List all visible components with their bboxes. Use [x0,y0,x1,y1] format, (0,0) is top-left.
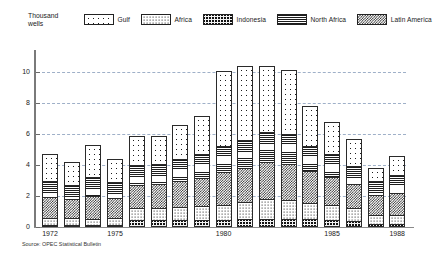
bar-segment-indonesia [85,225,101,227]
bar-segment-northafrica [151,164,167,183]
bar-1978[interactable] [172,125,188,227]
bar-1974[interactable] [85,145,101,227]
bar-1986[interactable] [346,139,362,227]
bar-segment-africa [107,218,123,225]
x-tick-label: 1985 [324,230,340,237]
bar-segment-gulf [259,66,275,132]
bar-segment-africa [281,200,297,219]
y-tick-label: 10 [18,68,30,75]
bar-segment-gulf [281,70,297,134]
bar-segment-africa [216,205,232,220]
bar-segment-latinamerica [85,196,101,218]
bar-segment-indonesia [281,219,297,228]
y-tick-label: 8 [18,99,30,106]
legend-swatch-northafrica-icon [277,14,307,25]
bar-segment-latinamerica [237,168,253,202]
bar-segment-africa [324,205,340,220]
y-tick-label: 0 [18,223,30,230]
bar-segment-indonesia [324,220,340,227]
bar-segment-gulf [85,145,101,177]
bar-segment-northafrica [194,154,210,177]
bar-segment-northafrica [302,146,318,172]
bar-segment-gulf [389,156,405,175]
bar-segment-africa [389,215,405,224]
bar-1981[interactable] [237,66,253,227]
bar-1988[interactable] [389,156,405,227]
bar-segment-africa [259,199,275,218]
bar-segment-northafrica [237,140,253,168]
bar-1987[interactable] [368,168,384,227]
bar-segment-northafrica [368,181,384,196]
legend-item-northafrica[interactable]: North Africa [277,14,346,25]
y-axis-title-line2: wells [28,20,43,27]
bar-segment-africa [346,208,362,221]
bar-segment-indonesia [107,225,123,227]
bar-1983[interactable] [281,70,297,227]
bar-1980[interactable] [216,71,232,227]
bar-1984[interactable] [302,106,318,227]
bar-1972[interactable] [42,154,58,227]
bar-1975[interactable] [107,159,123,227]
legend-swatch-latinamerica-icon [357,14,387,25]
bar-segment-gulf [172,125,188,159]
bar-segment-gulf [151,136,167,165]
legend-item-gulf[interactable]: Gulf [84,14,130,25]
bar-segment-gulf [302,106,318,145]
bar-segment-latinamerica [172,181,188,207]
source-note: Source: OPEC Statistical Bulletin [22,241,101,247]
legend-item-latinamerica[interactable]: Latin America [357,14,432,25]
bar-segment-latinamerica [346,184,362,208]
bar-segment-indonesia [172,220,188,227]
legend-label: Gulf [118,16,131,23]
bar-segment-indonesia [216,220,232,227]
bar-segment-latinamerica [42,197,58,218]
bar-segment-gulf [64,162,80,184]
bar-segment-gulf [107,159,123,182]
bar-segment-indonesia [237,219,253,227]
legend-item-indonesia[interactable]: Indonesia [203,14,266,25]
bar-segment-northafrica [259,132,275,162]
bar-1973[interactable] [64,162,80,227]
bar-segment-latinamerica [281,164,297,200]
bar-1979[interactable] [194,116,210,227]
bar-segment-indonesia [64,225,80,227]
bar-segment-latinamerica [368,195,384,215]
bar-segment-northafrica [389,175,405,193]
y-tick-mark [36,72,40,73]
legend-label: North Africa [310,16,346,23]
chart-legend: GulfAfricaIndonesiaNorth AfricaLatin Ame… [84,14,437,25]
bar-segment-indonesia [368,224,384,227]
y-tick-label: 4 [18,161,30,168]
bar-segment-northafrica [64,185,80,200]
bar-segment-indonesia [346,221,362,227]
legend-swatch-gulf-icon [84,14,114,25]
bar-segment-indonesia [194,220,210,227]
plot-area: 0246810 19721975198019851988 [34,50,414,228]
bar-1985[interactable] [324,122,340,227]
bar-segment-gulf [194,116,210,155]
bar-segment-gulf [216,71,232,146]
legend-swatch-africa-icon [141,14,171,25]
legend-label: Africa [175,16,192,23]
bar-segment-latinamerica [216,172,232,204]
bar-segment-northafrica [172,159,188,181]
legend-item-africa[interactable]: Africa [141,14,192,25]
bar-segment-indonesia [129,220,145,227]
bar-segment-africa [64,218,80,225]
bar-1977[interactable] [151,136,167,227]
bar-segment-indonesia [42,225,58,227]
legend-label: Indonesia [236,16,266,23]
bar-segment-africa [42,218,58,225]
bar-segment-africa [172,207,188,220]
bar-segment-indonesia [302,219,318,227]
bar-segment-northafrica [42,181,58,197]
bar-segment-latinamerica [64,199,80,218]
bar-segment-latinamerica [302,171,318,203]
bar-segment-northafrica [129,165,145,184]
x-tick-label: 1980 [216,230,232,237]
x-tick-label: 1972 [42,230,58,237]
bar-segment-gulf [346,139,362,166]
bar-segment-africa [368,215,384,224]
bar-1982[interactable] [259,66,275,227]
bar-1976[interactable] [129,136,145,227]
